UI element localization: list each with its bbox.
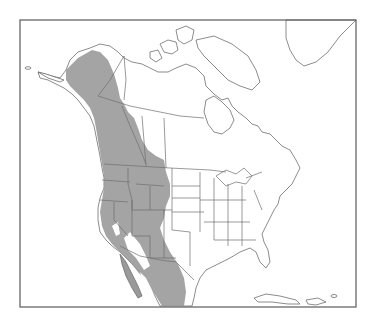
map-svg [0,0,380,326]
greenland [286,20,356,66]
arctic-island-1 [160,40,178,54]
arctic-island-2 [176,26,194,44]
cuba [254,294,300,304]
aleutian-island [25,67,31,70]
baffin-island [196,36,260,90]
hispaniola [306,298,326,305]
puerto-rico [331,295,337,298]
range-map [0,0,380,326]
arctic-island-3 [150,50,162,62]
